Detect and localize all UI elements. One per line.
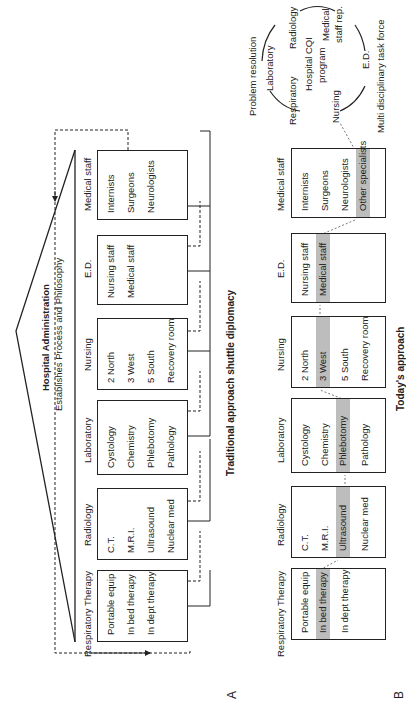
dept-header: Respiratory Therapy (275, 571, 286, 657)
dept-item: Nursing staff (298, 243, 312, 296)
dept-item-highlighted: In bed therapy (316, 569, 330, 639)
dept-header: Medical staff (82, 158, 93, 211)
dept-item-highlighted: Other specialists (356, 149, 370, 217)
dept-box-laboratory-b: Cystology Chemistry Phlebotomy Pathology (291, 398, 386, 473)
dept-item-highlighted: 3 West (316, 317, 330, 387)
cycle-member: Respiratory (287, 76, 298, 125)
dept-box-nursing-b: 2 North 3 West 5 South Recovery room (291, 316, 386, 388)
dept-item: Chemistry (318, 423, 332, 466)
dept-item: Surgeons (124, 172, 138, 213)
dept-header: Respiratory Therapy (82, 571, 93, 657)
dept-item-highlighted: Medical staff (316, 234, 330, 302)
dept-item: M.R.I. (318, 526, 332, 551)
dept-header: Laboratory (82, 418, 93, 463)
dept-header: Nursing (82, 338, 93, 371)
dept-item: 3 West (124, 354, 138, 383)
diagram-canvas: Hospital Administration Establishes Proc… (0, 0, 406, 701)
dept-header: Nursing (275, 338, 286, 371)
dept-item: Nuclear med (358, 497, 372, 551)
dept-item: Internists (104, 174, 118, 213)
dept-header: Laboratory (275, 418, 286, 463)
dept-header: Radiology (82, 504, 93, 546)
panel-a-label: A (225, 691, 239, 699)
cycle-member: Radiology (287, 7, 298, 49)
dept-item: 5 South (144, 350, 158, 383)
dept-header: E.D. (275, 260, 286, 278)
dept-item: Internists (298, 172, 312, 211)
dept-item-highlighted: Ultrasound (336, 487, 350, 557)
dept-item: 2 North (104, 352, 118, 383)
dept-box-nursing: 2 North 3 West 5 South Recovery room (97, 318, 188, 390)
dept-item: In dept therapy (144, 572, 158, 635)
dept-item: Neurologists (144, 160, 158, 213)
dept-header: Medical staff (275, 158, 286, 211)
cycle-member: staff rep. (333, 6, 344, 43)
panel-b-label: B (392, 691, 406, 699)
cycle-bottom-label: Multi disciplinary task force (375, 19, 386, 133)
cycle-member: Laboratory (264, 46, 275, 91)
admin-title: Hospital Administration (40, 284, 51, 391)
dept-item: Nuclear med (164, 499, 178, 553)
dept-item: Recovery room (164, 319, 178, 383)
cycle-top-label: Problem resolution (247, 37, 258, 116)
cycle-member: E.D. (360, 51, 371, 69)
dept-item: Surgeons (318, 170, 332, 211)
dept-box-ed: Nursing staff Medical staff (97, 235, 188, 305)
dept-item-highlighted: Phlebotomy (336, 399, 350, 472)
dept-item: Pathology (358, 424, 372, 466)
dept-item: Cystology (104, 426, 118, 468)
panel-a-caption: Traditional approach shuttle diplomacy (225, 290, 236, 476)
dept-box-radiology: C.T. M.R.I. Ultrasound Nuclear med (97, 488, 188, 560)
dept-item: 5 South (338, 348, 352, 381)
dept-item: C.T. (298, 534, 312, 551)
admin-subtitle: Establishes Process and Philosophy (53, 258, 64, 411)
dept-item: Pathology (164, 426, 178, 468)
dept-box-ed-b: Nursing staff Medical staff (291, 233, 386, 303)
dept-item: Phlebotomy (144, 418, 158, 468)
dept-item: In dept therapy (338, 570, 352, 633)
dept-item: Ultrasound (144, 507, 158, 553)
dept-item: Chemistry (124, 425, 138, 468)
dept-item: Cystology (298, 424, 312, 466)
dept-item: Medical staff (124, 245, 138, 298)
dept-item: M.R.I. (124, 528, 138, 553)
cycle-center: Hospital CQI (303, 37, 314, 91)
dept-box-respiratory-b: Portable equip In bed therapy In dept th… (291, 568, 386, 640)
dept-item: Portable equip (298, 572, 312, 633)
dept-box-radiology-b: C.T. M.R.I. Ultrasound Nuclear med (291, 486, 386, 558)
dept-box-medical-staff-b: Internists Surgeons Neurologists Other s… (291, 148, 386, 218)
dept-box-medical-staff: Internists Surgeons Neurologists (97, 150, 188, 220)
dept-item: Neurologists (338, 158, 352, 211)
cycle-center: program (316, 48, 327, 83)
panel-b-caption: Today's approach (395, 327, 406, 411)
dept-item: C.T. (104, 536, 118, 553)
dept-item: Nursing staff (104, 245, 118, 298)
dept-box-laboratory: Cystology Chemistry Phlebotomy Pathology (97, 400, 188, 475)
dept-header: Radiology (275, 504, 286, 546)
dept-box-respiratory: Portable equip In bed therapy In dept th… (97, 570, 188, 642)
dept-item: Recovery room (358, 317, 372, 381)
cycle-member: Nursing (330, 90, 341, 123)
dept-header: E.D. (82, 260, 93, 278)
cycle-member: Medical (320, 8, 331, 41)
dept-item: In bed therapy (124, 574, 138, 635)
dept-item: 2 North (298, 350, 312, 381)
dept-item: Portable equip (104, 574, 118, 635)
